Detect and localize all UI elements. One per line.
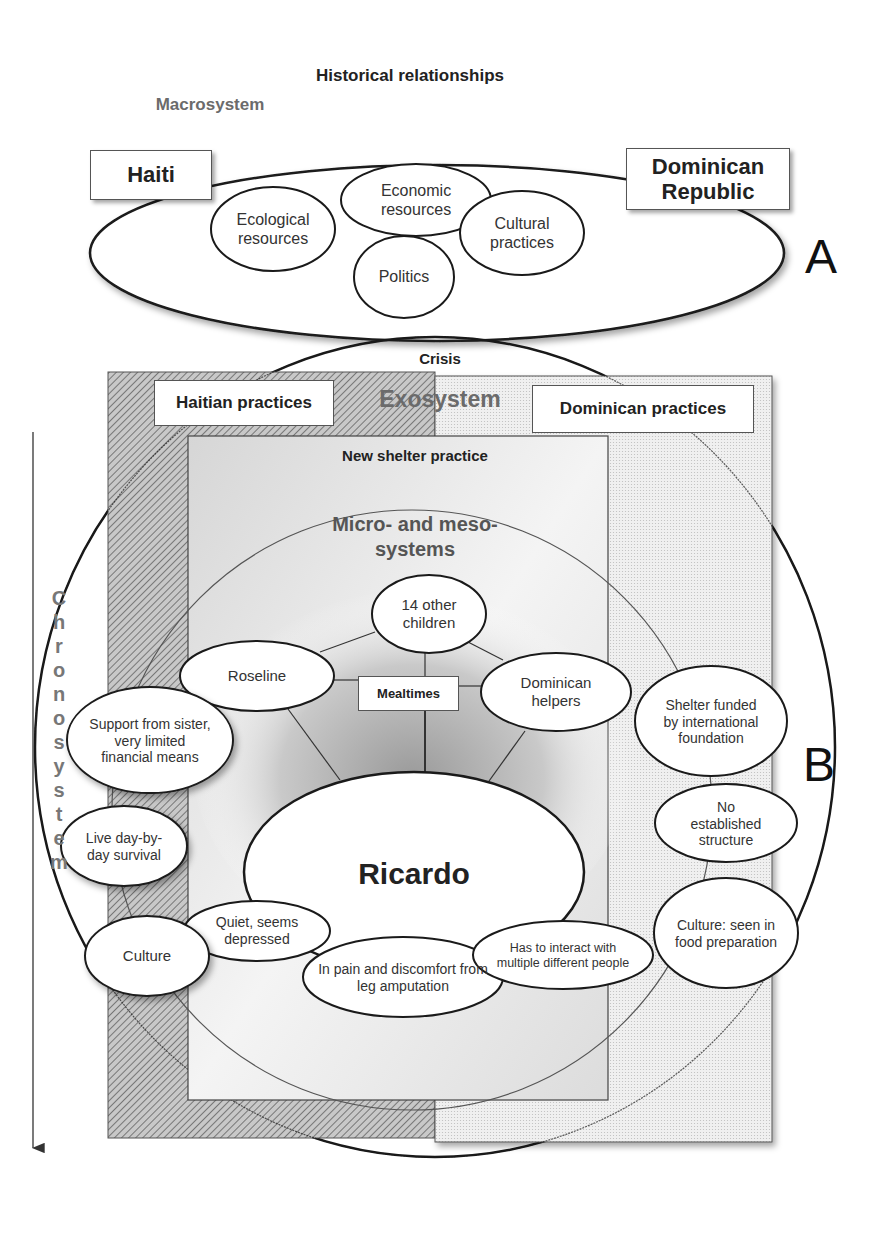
- micro-meso-label: Micro- and meso-systems: [320, 512, 510, 562]
- culture-haiti-label: Culture: [100, 942, 194, 970]
- ecological-label: Ecological resources: [225, 200, 321, 258]
- support-label: Support from sister, very limited financ…: [88, 708, 212, 774]
- interact-label: Has to interact with multiple different …: [492, 930, 634, 982]
- chronosystem-letter: o: [44, 706, 74, 730]
- chronosystem-letter: C: [44, 586, 74, 610]
- politics-label: Politics: [360, 262, 448, 292]
- quiet-label: Quiet, seems depressed: [200, 908, 314, 954]
- chronosystem-letter: s: [44, 730, 74, 754]
- economic-label: Economic resources: [366, 172, 466, 228]
- crisis-label: Crisis: [400, 350, 480, 368]
- panel-a-letter: A: [796, 228, 846, 286]
- dominican-republic-box: Dominican Republic: [626, 148, 790, 210]
- chronosystem-letter: r: [44, 634, 74, 658]
- chronosystem-letter: y: [44, 754, 74, 778]
- new-shelter-practice-label: New shelter practice: [300, 447, 530, 465]
- ricardo-label: Ricardo: [314, 852, 514, 896]
- haiti-box: Haiti: [90, 150, 212, 200]
- exosystem-label: Exosystem: [360, 386, 520, 414]
- chronosystem-letter: t: [44, 802, 74, 826]
- chronosystem-label: Chronosystem: [44, 586, 74, 874]
- chronosystem-letter: o: [44, 658, 74, 682]
- other-children-label: 14 other children: [384, 590, 474, 638]
- pain-label: In pain and discomfort from leg amputati…: [318, 948, 488, 1008]
- chronosystem-letter: m: [44, 850, 74, 874]
- mealtimes-box: Mealtimes: [358, 676, 459, 711]
- chronosystem-letter: n: [44, 682, 74, 706]
- dominican-practices-box: Dominican practices: [532, 385, 754, 433]
- survival-label: Live day-by-day survival: [80, 818, 168, 876]
- shelter-funded-label: Shelter funded by international foundati…: [660, 686, 762, 758]
- chronosystem-letter: s: [44, 778, 74, 802]
- panel-b-letter: B: [794, 736, 844, 794]
- haitian-practices-box: Haitian practices: [154, 380, 334, 426]
- no-structure-label: No established structure: [680, 796, 772, 852]
- cultural-label: Cultural practices: [476, 205, 568, 261]
- dominican-helpers-label: Dominican helpers: [500, 668, 612, 716]
- culture-dr-label: Culture: seen in food preparation: [670, 906, 782, 962]
- chronosystem-letter: h: [44, 610, 74, 634]
- macrosystem-label: Macrosystem: [130, 95, 290, 115]
- chronosystem-letter: e: [44, 826, 74, 850]
- roseline-label: Roseline: [200, 662, 314, 690]
- historical-relationships-title: Historical relationships: [260, 66, 560, 86]
